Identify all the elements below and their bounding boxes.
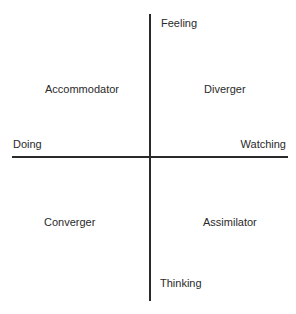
quadrant-label-accommodator: Accommodator <box>45 83 119 96</box>
quadrant-label-converger: Converger <box>44 216 95 229</box>
quadrant-label-assimilator: Assimilator <box>203 216 257 229</box>
axis-label-doing: Doing <box>13 138 42 151</box>
axis-label-watching: Watching <box>241 138 286 151</box>
axis-label-thinking: Thinking <box>160 277 202 290</box>
horizontal-axis-line <box>12 156 288 158</box>
axis-label-feeling: Feeling <box>161 17 197 30</box>
quadrant-label-diverger: Diverger <box>204 83 246 96</box>
